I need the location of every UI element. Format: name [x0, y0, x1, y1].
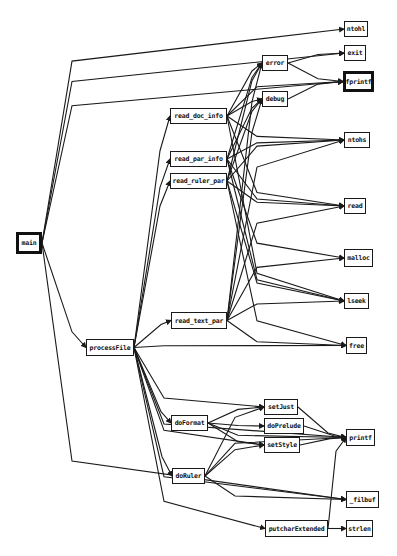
node-ntohs[interactable]: ntohs [344, 132, 370, 148]
node-putcharextended[interactable]: putcharExtended [265, 520, 328, 537]
edge-read_doc_info-to-ntohs [227, 116, 344, 140]
node-strlen[interactable]: strlen [346, 520, 373, 537]
node-free[interactable]: free [346, 337, 367, 354]
edge-processFile-to-free [134, 346, 346, 348]
node-processfile[interactable]: processFile [86, 339, 134, 356]
node--filbuf[interactable]: _filbuf [346, 491, 379, 508]
edge-read_par_info-to-malloc [227, 159, 344, 258]
edge-processFile-to-_filbuf [134, 348, 346, 500]
node-lseek[interactable]: lseek [344, 293, 369, 309]
node-read-text-par[interactable]: read_text_par [171, 312, 227, 329]
call-graph: mainprocessFileread_doc_inforead_par_inf… [0, 0, 397, 556]
node-ntohl[interactable]: ntohl [344, 21, 368, 37]
edge-read_par_info-to-ntohs [227, 140, 344, 159]
edge-main-to-ntohl [42, 29, 344, 243]
node-read-doc-info[interactable]: read_doc_info [170, 108, 227, 124]
edge-processFile-to-doFormat [134, 348, 171, 424]
edge-processFile-to-read_text_par [134, 321, 171, 348]
edge-read_text_par-to-lseek [227, 301, 344, 321]
node-debug[interactable]: debug [262, 91, 288, 107]
node-doformat[interactable]: doFormat [171, 415, 208, 431]
edge-setJust-to-printf [298, 407, 346, 438]
node-read[interactable]: read [344, 198, 366, 214]
edge-read_ruler_par-to-ntohs [227, 140, 344, 181]
edge-read_text_par-to-free [227, 321, 346, 346]
node-malloc[interactable]: malloc [344, 249, 373, 267]
node-read-par-info[interactable]: read_par_info [170, 151, 227, 167]
edge-doRuler-to-setStyle [205, 445, 264, 476]
edge-doFormat-to-setJust [208, 407, 264, 423]
node-setjust[interactable]: setJust [264, 399, 298, 415]
edge-processFile-to-putcharExtended [134, 348, 265, 529]
node-exit[interactable]: exit [344, 45, 366, 61]
node-setstyle[interactable]: setStyle [264, 437, 300, 453]
node-error[interactable]: error [262, 55, 288, 71]
edge-processFile-to-printf [134, 348, 346, 438]
edge-doFormat-to-doPrelude [208, 423, 264, 426]
edge-processFile-to-doRuler [134, 348, 172, 477]
node-read-ruler-par[interactable]: read_ruler_par [170, 173, 227, 189]
edge-main-to-processFile [42, 243, 86, 348]
edge-main-to-_filbuf [42, 243, 346, 500]
node-main[interactable]: main [16, 232, 42, 254]
node-printf[interactable]: printf [346, 429, 375, 446]
edge-read_ruler_par-to-lseek [227, 181, 344, 301]
node-doprelude[interactable]: doPrelude [264, 418, 304, 434]
edge-putcharExtended-to-printf [328, 438, 346, 529]
node-doruler[interactable]: doRuler [172, 468, 205, 484]
edge-error-to-fprintf [288, 63, 343, 82]
node-fprintf[interactable]: fprintf [343, 71, 374, 92]
